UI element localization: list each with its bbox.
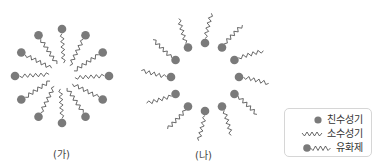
surfactant-molecule [58, 89, 67, 127]
legend-label-surfactant: 유화제 [336, 142, 363, 154]
caption-na: (나) [195, 147, 212, 162]
surfactant-molecule [178, 19, 192, 52]
surfactant-molecule [58, 25, 67, 63]
hydrophobic-tail [41, 39, 57, 64]
hydrophilic-head [230, 56, 239, 65]
hydrophobic-tail [198, 116, 206, 141]
legend-item-hydrophobic: 소수성기 [301, 128, 363, 140]
hydrophilic-head [81, 112, 90, 121]
legend-label-hydrophilic: 친수성기 [327, 114, 363, 126]
surfactant-molecule [67, 88, 90, 121]
surfactant-molecule [147, 90, 180, 104]
surfactant-molecule [141, 70, 175, 82]
legend-item-surfactant: 유화제 [302, 142, 363, 154]
legend-item-hydrophilic: 친수성기 [313, 114, 363, 126]
hydrophilic-head [218, 102, 227, 111]
hydrophilic-head [81, 31, 90, 40]
hydrophobic-tail [178, 19, 186, 44]
surfactant-molecule [235, 73, 269, 85]
hydrophobic-tail [238, 96, 257, 114]
legend-label-hydrophobic: 소수성기 [327, 128, 363, 140]
hydrophobic-tail [20, 73, 50, 78]
surfactant-molecule [201, 13, 213, 47]
surfactant-molecule [153, 40, 180, 65]
hydrophobic-tail [244, 77, 269, 85]
hydrophobic-tail [168, 110, 186, 129]
hydrophilic-head [218, 43, 227, 52]
hydrophilic-head [34, 31, 43, 40]
hydrophilic-head [171, 56, 180, 65]
hydrophobic-tail [25, 55, 51, 68]
surfactant-molecule [230, 90, 257, 115]
hydrophilic-head [58, 119, 67, 128]
hydrophobic-tail [70, 39, 83, 65]
surfactant-molecule [74, 48, 107, 71]
hydrophilic-head [105, 72, 114, 81]
hydrophilic-head [58, 25, 67, 34]
hydrophilic-head [17, 95, 26, 104]
surfactant-molecule [11, 72, 49, 81]
legend-box: 친수성기 소수성기 유화제 [284, 108, 372, 157]
surfactant-molecule [230, 50, 263, 64]
surfactant-molecule [34, 31, 57, 64]
surfactant-molecule [75, 72, 113, 81]
hydrophilic-head [17, 48, 26, 57]
hydrophobic-tail-icon [301, 130, 323, 138]
hydrophobic-tail [25, 81, 50, 97]
hydrophobic-tail [223, 110, 231, 135]
hydrophilic-head [230, 90, 239, 99]
caption-ga: (가) [53, 146, 70, 161]
hydrophilic-head [167, 73, 176, 82]
hydrophobic-tail [153, 40, 172, 58]
hydrophilic-head-icon [313, 115, 323, 125]
hydrophilic-head [34, 112, 43, 121]
hydrophobic-tail [141, 70, 166, 78]
surfactant-molecule [17, 81, 50, 104]
hydrophobic-tail [41, 86, 54, 112]
micelle-diagram-na [141, 13, 268, 140]
hydrophilic-head [184, 102, 193, 111]
surfactant-molecule [168, 102, 193, 129]
hydrophobic-tail [238, 50, 263, 58]
hydrophobic-tail [74, 55, 99, 71]
surfactant-molecule [218, 25, 243, 52]
hydrophilic-head [98, 48, 107, 57]
surfactant-molecule-icon [302, 143, 332, 153]
hydrophilic-head [201, 107, 210, 116]
hydrophilic-head [11, 72, 20, 81]
hydrophilic-head [184, 43, 193, 52]
hydrophobic-tail [147, 95, 172, 103]
hydrophobic-tail [67, 88, 83, 113]
hydrophobic-tail [60, 34, 65, 64]
hydrophilic-head [235, 73, 244, 82]
surfactant-molecule [198, 107, 210, 141]
hydrophobic-tail [72, 84, 98, 97]
surfactant-molecule [218, 102, 232, 135]
hydrophilic-head [171, 90, 180, 99]
hydrophobic-tail [205, 13, 213, 38]
hydrophobic-tail [75, 74, 105, 79]
micelle-diagram-ga [11, 25, 114, 128]
hydrophobic-tail [59, 89, 64, 119]
hydrophilic-head [201, 39, 210, 48]
hydrophilic-head [98, 95, 107, 104]
hydrophobic-tail [224, 25, 242, 44]
